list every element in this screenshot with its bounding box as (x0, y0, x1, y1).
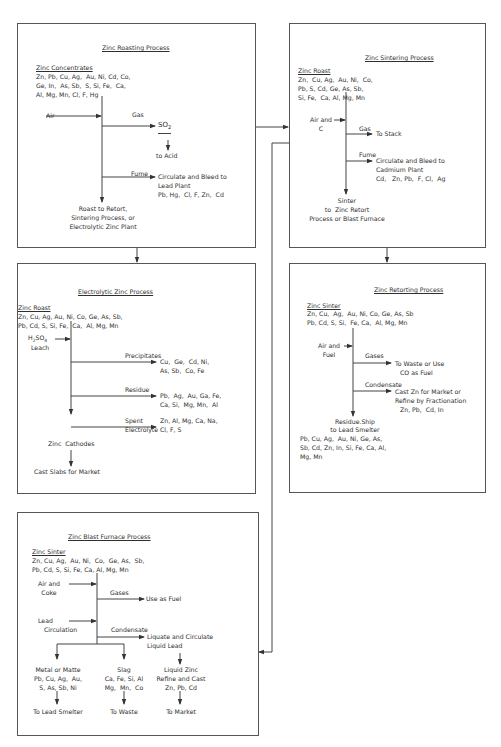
electrolytic-title: Electrolytic Zinc Process (78, 288, 153, 297)
roasting-feed-elements-3: Al, Mg, Mn, Cl, F, Hg (36, 91, 98, 100)
blast-branch-zinc-dest: To Market (148, 708, 214, 717)
blast-condensate-dest-1: Liquate and Circulate (147, 633, 213, 642)
roasting-output-3: Electrolytic Zinc Plant (48, 223, 158, 232)
electrolytic-spent-label-1: Spent (125, 417, 143, 426)
retorting-title: Zinc Retorting Process (374, 286, 443, 295)
electrolytic-feed-name: Zinc Roast (18, 304, 51, 313)
blast-branch-metal-dest: To Lead Smelter (18, 708, 98, 717)
roasting-fume-label: Fume (131, 170, 148, 179)
sintering-title: Zinc Sintering Process (365, 54, 434, 63)
retorting-condensate-dest-1: Cast Zn for Market or (395, 388, 461, 397)
retorting-gases-dest-2: CO as Fuel (400, 369, 433, 378)
electrolytic-process-box: Electrolytic Zinc Process Zinc Roast Zn,… (17, 263, 256, 494)
electrolytic-flow-lines (18, 264, 257, 495)
sintering-feed-name: Zinc Roast (298, 67, 331, 76)
roasting-fume-dest-3: Pb, Hg, Cl, F, Zn, Cd (158, 191, 224, 200)
sintering-fume-dest-1: Circulate and Bleed to (376, 157, 445, 166)
blast-input1-1: Air and (32, 580, 66, 589)
sintering-fume-dest-2: Cadmium Plant (376, 166, 423, 175)
electrolytic-feed-elements-2: Pb, Cd, S, Si, Fe, Ca, Al, Mg, Mn (18, 322, 119, 331)
retorting-feed-elements-2: Pb, Cd, S, Si, Fe, Ca, Al, Mg, Mn (307, 319, 408, 328)
electrolytic-spent-dest-2: Cl, F, S (160, 426, 181, 435)
blast-branch-metal-1: Metal or Matte (18, 666, 98, 675)
blast-branch-zinc-3: Zn, Pb, Cd (148, 684, 214, 693)
sintering-output-2: to Zinc Retort (292, 206, 402, 215)
roasting-process-box: Zinc Roasting Process Zinc Concentrates … (17, 23, 256, 248)
sinter-to-blast-line (272, 143, 289, 652)
sintering-feed-elements-2: Pb, S, Cd, Ge, As, Sb, (298, 85, 363, 94)
electrolytic-output: Cast Slabs for Market (34, 468, 100, 477)
electrolytic-feed-elements-1: Zn, Cu, Ag, Au, Ni, Co, Ge, As, Sb, (18, 313, 123, 322)
roasting-title: Zinc Roasting Process (102, 44, 170, 53)
roasting-gas-product: SO2 (158, 121, 171, 134)
roasting-fume-dest-1: Circulate and Bleed to (158, 173, 227, 182)
blast-flow-lines (18, 513, 260, 737)
retorting-input-2: Fuel (312, 351, 346, 360)
blast-branch-metal-3: S, As, Sb, Ni (18, 684, 98, 693)
electrolytic-residue-dest-2: Ca, Si, Mg, Mn, Al (160, 401, 218, 410)
retorting-condensate-dest-2: Refine by Fractionation (395, 397, 466, 406)
retorting-residue-elements-2: Sb, Cd, Zn, In, Si, Fe, Ca, Al, (300, 444, 386, 453)
blast-branch-zinc-2: Refine and Cast (148, 675, 214, 684)
retorting-residue-elements-1: Pb, Cu, Ag, Au, Ni, Ge, As, (300, 435, 382, 444)
electrolytic-spent-label-2: Electrolyte (125, 426, 158, 435)
roasting-feed-elements-1: Zn, Pb, Cu, Ag, Au, Ni, Cd, Co, (36, 73, 131, 82)
roasting-feed-name: Zinc Concentrates (36, 64, 93, 73)
sintering-gas-label: Gas (359, 125, 371, 134)
blast-gases-label: Gases (110, 589, 129, 598)
sintering-gas-dest: To Stack (376, 130, 402, 139)
retorting-input-1: Air and (312, 342, 346, 351)
roasting-output-2: Sintering Process, or (48, 214, 158, 223)
retorting-gases-label: Gases (365, 352, 384, 361)
blast-title: Zinc Blast Furnace Process (68, 533, 151, 542)
roasting-fume-dest-2: Lead Plant (158, 182, 190, 191)
electrolytic-precip-dest-2: As, Sb, Co, Fe (160, 367, 204, 376)
blast-feed-elements-2: Pb, Cd, S, Si, Fe, Ca, Al, Mg, Mn (32, 566, 129, 575)
blast-branch-zinc-1: Liquid Zinc (148, 666, 214, 675)
electrolytic-residue-dest-1: Pb, Ag, Au, Ga, Fe, (160, 392, 221, 401)
blast-feed-name: Zinc Sinter (32, 548, 66, 557)
sintering-fume-dest-3: Cd, Zn, Pb, F, Cl, Ag (376, 175, 445, 184)
retorting-residue-elements-3: Mg, Mn (300, 453, 322, 462)
retorting-condensate-dest-3: Zn, Pb, Cd, In (400, 406, 444, 415)
electrolytic-precip-label: Precipitates (125, 352, 161, 361)
blast-condensate-label: Condensate (111, 626, 148, 635)
electrolytic-spent-dest-1: Zn, Al, Mg, Ca, Na, (160, 417, 218, 426)
blast-gases-dest: Use as Fuel (146, 595, 181, 604)
retorting-gases-dest-1: To Waste or Use (395, 360, 444, 369)
retorting-residue-2: to Lead Smelter (320, 426, 390, 435)
blast-input2-1: Lead (38, 617, 53, 626)
sintering-output-1: Sinter (292, 197, 402, 206)
blast-furnace-process-box: Zinc Blast Furnace Process Zinc Sinter Z… (17, 512, 259, 736)
sintering-feed-elements-1: Zn, Cu, Ag, Au, Ni, Co, (298, 76, 373, 85)
blast-input2-2: Circulation (44, 626, 77, 635)
retorting-process-box: Zinc Retorting Process Zinc Sinter Zn, C… (289, 263, 486, 493)
roasting-gas-dest: to Acid (156, 152, 177, 161)
roasting-gas-label: Gas (132, 111, 144, 120)
sintering-feed-elements-3: Si, Fe, Ca, Al, Mg, Mn (298, 94, 365, 103)
retorting-feed-elements-1: Zn, Cu, Ag, Au, Ni, Co, Ge, As, Sb (307, 310, 414, 319)
electrolytic-cathodes: Zinc Cathodes (48, 440, 94, 449)
roasting-input-air: Air (46, 112, 55, 121)
electrolytic-precip-dest-1: Cu, Ge, Cd, Ni, (160, 358, 209, 367)
sintering-input-2: C (306, 125, 336, 134)
sintering-input-1: Air and (306, 116, 336, 125)
blast-condensate-dest-2: Liquid Lead (147, 642, 183, 651)
blast-input1-2: Coke (32, 589, 66, 598)
sintering-fume-label: Fume (359, 151, 376, 160)
sintering-output-3: Process or Blast Furnace (292, 215, 402, 224)
sintering-process-box: Zinc Sintering Process Zinc Roast Zn, Cu… (289, 23, 486, 248)
blast-branch-metal-2: Pb, Cu, Ag, Au, (18, 675, 98, 684)
roasting-output-1: Roast to Retort, (48, 205, 158, 214)
roasting-feed-elements-2: Ge, In, As, Sb, S, Si, Fe, Ca, (36, 82, 126, 91)
electrolytic-input-leach: Leach (31, 344, 49, 353)
blast-feed-elements-1: Zn, Cu, Ag, Au, Ni, Co, Ge, As, Sb, (32, 557, 144, 566)
electrolytic-residue-label: Residue (125, 386, 149, 395)
